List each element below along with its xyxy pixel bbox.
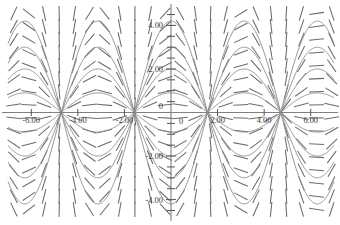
x-tick-label-pos6: 6.00 <box>303 116 318 125</box>
field-dash <box>327 151 336 163</box>
x-tick-label-neg4: -4.00 <box>69 116 86 125</box>
field-dash <box>270 19 272 34</box>
field-dash <box>118 32 121 47</box>
field-dash <box>177 7 184 20</box>
field-dash <box>286 32 287 47</box>
field-dash <box>294 103 309 107</box>
field-dash <box>224 6 227 21</box>
field-dash <box>9 47 18 59</box>
field-dash <box>6 117 21 119</box>
field-dash <box>21 104 36 105</box>
field-dash <box>309 170 324 171</box>
field-dash <box>286 45 287 60</box>
field-dash <box>270 163 273 178</box>
x-tick-label-zero: 0 <box>179 117 183 126</box>
field-dash <box>84 61 96 70</box>
field-dash <box>83 153 95 162</box>
field-dash <box>23 9 35 18</box>
field-dash <box>149 6 152 21</box>
field-dash <box>194 163 197 178</box>
field-dash <box>286 163 287 178</box>
field-dash <box>23 205 35 214</box>
field-dash <box>119 6 122 21</box>
field-dash <box>118 176 122 191</box>
field-dash <box>210 137 211 152</box>
field-dash <box>234 64 248 68</box>
y-tick-label-pos4: 4.00 <box>148 21 163 30</box>
field-dash <box>98 62 111 70</box>
field-dash <box>82 104 97 106</box>
solution-curve <box>208 47 281 112</box>
field-dash <box>59 45 60 60</box>
field-dash <box>41 59 47 73</box>
field-dash <box>309 12 324 14</box>
field-dash <box>160 204 170 215</box>
field-dash <box>22 142 37 146</box>
field-dash <box>143 102 157 108</box>
field-dash <box>210 45 211 60</box>
field-dash <box>23 192 35 200</box>
field-dash <box>42 189 46 204</box>
field-dash <box>158 118 173 119</box>
x-tick-label-neg2: -2.00 <box>116 116 133 125</box>
field-dash <box>299 33 304 47</box>
field-dash <box>59 150 60 165</box>
y-tick-label-neg4: -4.00 <box>146 196 163 205</box>
field-dash <box>224 19 228 33</box>
field-dash <box>194 45 197 60</box>
solution-curve <box>281 93 334 113</box>
field-dash <box>224 189 228 203</box>
field-dash <box>118 189 121 204</box>
field-dash <box>252 33 259 46</box>
field-dash <box>173 104 188 106</box>
field-dash <box>100 204 109 216</box>
field-dash <box>270 176 272 191</box>
field-dash <box>158 142 172 147</box>
x-tick-label-pos2: 2.00 <box>210 116 225 125</box>
field-dash <box>145 86 155 97</box>
field-dash <box>326 73 336 84</box>
field-dash <box>210 189 211 204</box>
field-dash <box>329 6 334 20</box>
field-dash <box>22 180 35 187</box>
field-dash <box>327 60 336 72</box>
field-dash <box>324 103 339 106</box>
field-dash <box>176 20 184 33</box>
slope-field-plot: -6.00 -4.00 -2.00 0 2.00 4.00 6.00 4.00 … <box>0 0 340 225</box>
field-dash <box>59 163 60 178</box>
field-dash <box>270 6 272 21</box>
field-dash <box>220 126 232 135</box>
solution-curve <box>61 21 134 112</box>
field-dash <box>210 150 211 165</box>
field-dash <box>40 138 48 150</box>
field-dash <box>176 177 185 189</box>
field-dash <box>233 91 248 93</box>
field-dash <box>148 176 152 191</box>
field-dash <box>8 74 20 83</box>
field-dash <box>159 179 171 188</box>
field-dash <box>191 125 200 137</box>
field-dash <box>296 139 306 150</box>
field-dash <box>210 176 211 191</box>
field-dash <box>210 71 211 86</box>
field-dash <box>329 20 334 34</box>
y-tick-label-zero: 0 <box>159 102 163 111</box>
field-dash <box>309 78 324 79</box>
field-dash <box>174 140 187 147</box>
field-dash <box>59 58 60 73</box>
field-dash <box>234 168 248 173</box>
field-dash <box>85 34 95 45</box>
field-dash <box>58 124 60 139</box>
field-dash <box>270 202 272 217</box>
field-dash <box>324 117 339 119</box>
field-dash <box>309 157 324 158</box>
field-dash <box>148 32 152 47</box>
field-dash <box>299 202 303 216</box>
field-dash <box>285 71 287 86</box>
field-dash <box>233 118 248 119</box>
field-dash <box>83 75 96 82</box>
field-dash <box>98 141 112 147</box>
field-dash <box>117 150 122 164</box>
field-dash <box>234 180 248 186</box>
field-dash <box>73 32 76 47</box>
